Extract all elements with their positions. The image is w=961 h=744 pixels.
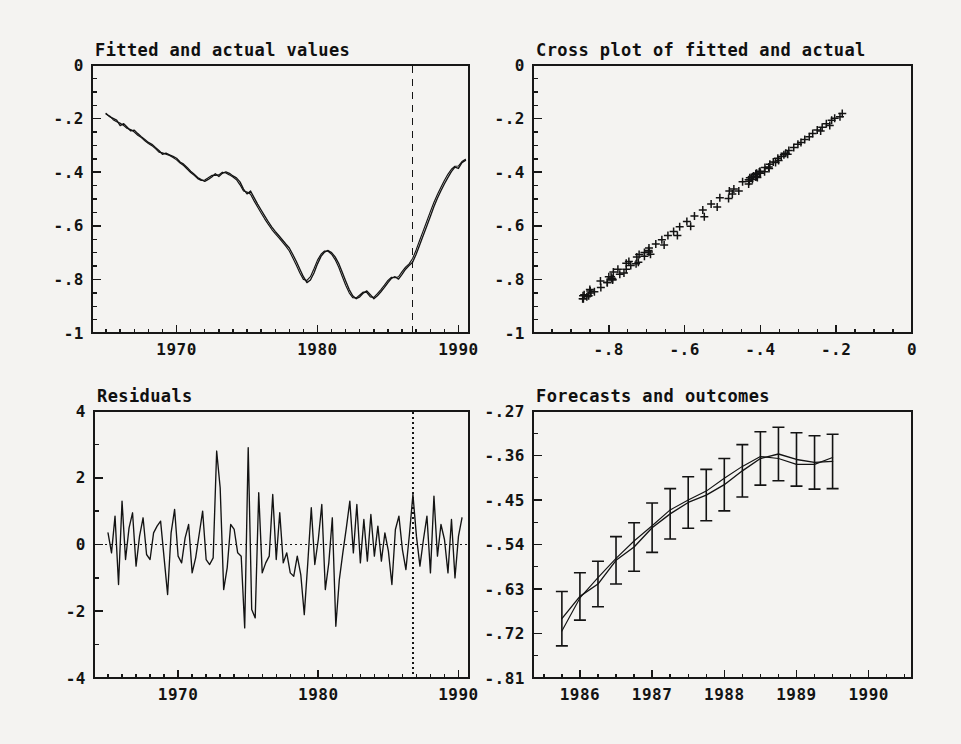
error-bar [700,469,712,520]
x-tick-label: 0 [907,340,917,359]
error-bar [718,458,730,510]
x-tick-label: -.6 [669,340,699,359]
error-bars [556,427,839,646]
scatter-marker-plus [716,194,724,202]
scatter-marker-plus [683,218,691,226]
x-tick-label: 1980 [298,685,339,704]
series-line-actual [106,114,465,299]
scatter-points [579,110,847,303]
scatter-marker-plus [687,222,695,230]
error-bar [790,433,802,486]
x-tick-label: 1970 [158,685,199,704]
x-tick-label: 1990 [438,685,479,704]
y-tick-label: -.2 [54,109,84,128]
error-bar [646,503,658,552]
series-line-fitted [106,114,465,298]
panel-title: Forecasts and outcomes [536,386,770,406]
x-tick-label: 1990 [848,685,889,704]
panel-residuals: Residuals197019801990420-2-4 [66,386,479,704]
y-tick-label: -.6 [54,216,84,235]
scatter-marker-plus [664,231,672,239]
y-tick-label: -.6 [495,216,525,235]
x-tick-label: 1988 [704,685,745,704]
scatter-marker-plus [699,206,707,214]
y-tick-label: 4 [76,402,86,421]
series-line-standardised-residuals [108,448,462,628]
error-bar [736,445,748,497]
y-tick-label: -.4 [495,163,525,182]
scatter-marker-plus [652,240,660,248]
panel-title: Cross plot of fitted and actual [536,40,866,60]
y-tick-label: -.63 [484,580,525,599]
error-bar [772,427,784,480]
x-tick-label: 1989 [776,685,817,704]
x-tick-label: 1980 [297,340,338,359]
error-bar [574,573,586,620]
figure-sheet: Fitted and actual values1970198019900-.2… [0,0,961,744]
x-tick-label: 1986 [560,685,601,704]
y-tick-label: -2 [66,602,86,621]
y-tick-label: -.81 [484,669,525,688]
series-line-forecast [562,454,833,619]
x-tick-label: 1990 [438,340,479,359]
error-bar [556,591,568,645]
x-tick-label: 1970 [156,340,197,359]
x-tick-label: -.2 [821,340,851,359]
y-tick-label: -.27 [484,402,525,421]
scatter-marker-plus [725,194,733,202]
panel-cross-plot-of-fitted-and-actual: Cross plot of fitted and actual-.8-.6-.4… [495,40,917,359]
error-bar [592,561,604,606]
panel-title: Residuals [97,386,193,406]
plot-canvas: Fitted and actual values1970198019900-.2… [0,0,961,744]
error-bar [628,523,640,571]
y-tick-label: -.8 [495,270,525,289]
x-tick-label: -.4 [745,340,775,359]
y-tick-label: -.8 [54,270,84,289]
scatter-marker-plus [730,185,738,193]
y-tick-label: 2 [76,468,86,487]
y-tick-label: 0 [76,535,86,554]
series-line-outcome [562,456,833,631]
error-bar [610,537,622,584]
panel-fitted-and-actual-values: Fitted and actual values1970198019900-.2… [54,40,479,359]
scatter-marker-plus [673,231,681,239]
scatter-marker-plus [690,212,698,220]
y-tick-label: -.45 [484,491,525,510]
panel-forecasts-and-outcomes: Forecasts and outcomes198619871988198919… [484,386,912,704]
x-tick-label: -.8 [594,340,624,359]
y-tick-label: -.36 [484,446,525,465]
y-tick-label: -.4 [54,163,84,182]
x-tick-label: 1987 [632,685,673,704]
scatter-marker-plus [676,223,684,231]
scatter-marker-plus [670,227,678,235]
y-tick-label: -4 [66,669,86,688]
scatter-marker-plus [597,283,605,291]
y-tick-label: 0 [515,56,525,75]
y-tick-label: -1 [64,324,84,343]
scatter-marker-plus [700,213,708,221]
y-tick-label: -.72 [484,624,525,643]
panel-title: Fitted and actual values [95,40,350,60]
plot-frame [533,411,912,678]
y-tick-label: -.2 [495,109,525,128]
y-tick-label: -1 [505,324,525,343]
y-tick-label: -.54 [484,535,525,554]
y-tick-label: 0 [74,56,84,75]
